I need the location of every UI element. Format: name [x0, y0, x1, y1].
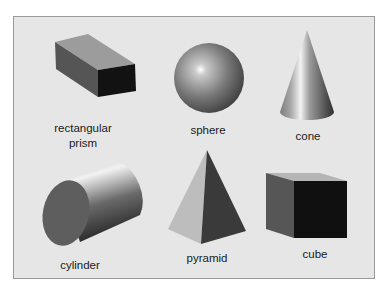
cone-shape	[280, 30, 334, 120]
pyramid-shape	[168, 150, 246, 244]
cube-label: cube	[303, 247, 328, 262]
rectangular-prism-shape	[55, 34, 136, 97]
cylinder-shape	[37, 163, 143, 250]
rectangular-prism-label-line2: prism	[54, 136, 112, 151]
cylinder-label: cylinder	[60, 258, 100, 273]
sphere-label: sphere	[190, 123, 225, 138]
cone-label: cone	[296, 129, 321, 144]
pyramid-label: pyramid	[187, 251, 228, 266]
rectangular-prism-label: rectangular prism	[54, 121, 112, 151]
cube-shape	[266, 173, 347, 238]
sphere-shape	[174, 43, 244, 113]
rectangular-prism-label-line1: rectangular	[54, 121, 112, 136]
